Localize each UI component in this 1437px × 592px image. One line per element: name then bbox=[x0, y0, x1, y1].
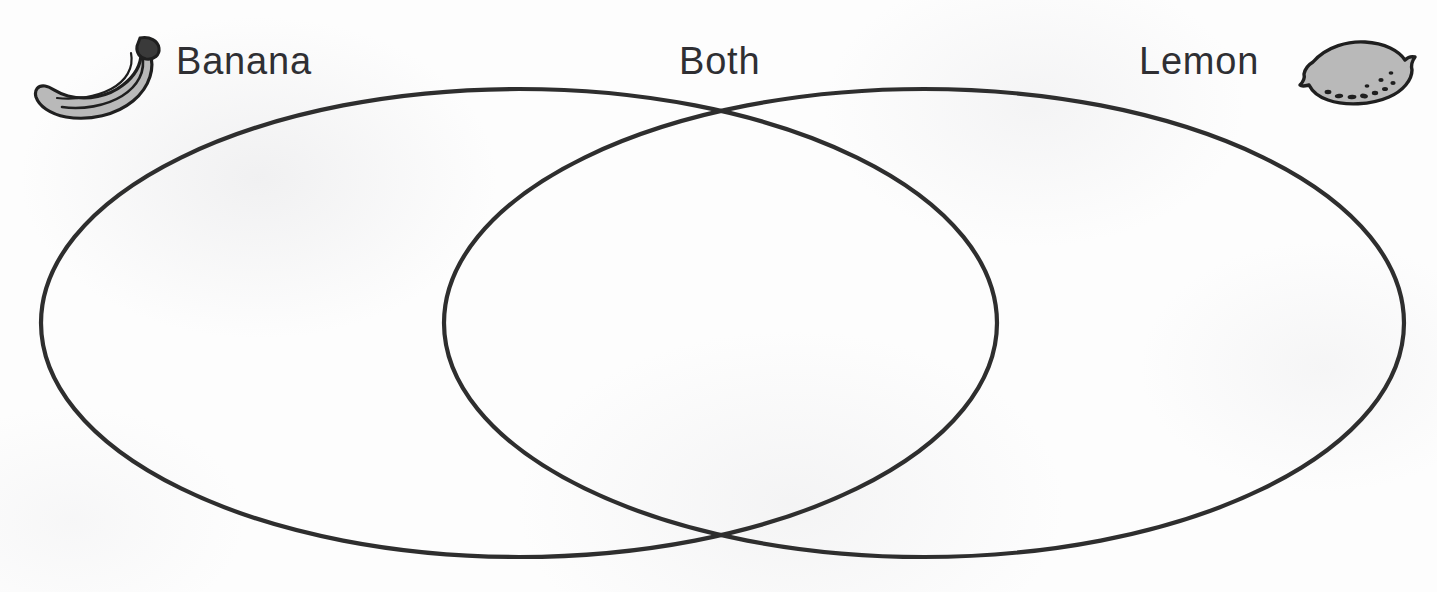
worksheet-sheet: Banana Both Lemon bbox=[0, 0, 1437, 592]
lemon-icon bbox=[1297, 36, 1419, 110]
venn-label-lemon: Lemon bbox=[1139, 42, 1259, 80]
venn-label-banana: Banana bbox=[176, 42, 312, 80]
venn-diagram-canvas bbox=[0, 0, 1437, 592]
venn-label-both: Both bbox=[679, 42, 760, 80]
venn-region-both[interactable] bbox=[581, 118, 861, 528]
banana-icon bbox=[30, 33, 170, 121]
